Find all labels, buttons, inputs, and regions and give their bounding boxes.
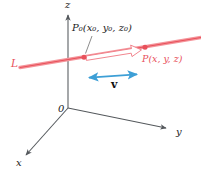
point-P-marker bbox=[143, 45, 148, 50]
x-axis-line bbox=[26, 108, 68, 155]
line-L-label: L bbox=[11, 58, 18, 69]
y-axis-label: y bbox=[176, 127, 182, 137]
point-P-label: P(x, y, z) bbox=[142, 54, 182, 64]
y-axis-line bbox=[68, 108, 166, 128]
displacement-arrow-outline bbox=[86, 45, 142, 60]
point-P0-label: P₀(x₀, y₀, z₀) bbox=[72, 23, 132, 33]
x-axis-label: x bbox=[16, 158, 22, 168]
point-P0-marker bbox=[82, 55, 87, 60]
figure-container: z y x 0 L P₀(x₀, y₀, z₀) P(x, y, z) v bbox=[0, 0, 201, 175]
displacement-arrow bbox=[86, 45, 142, 60]
z-axis-label: z bbox=[65, 0, 70, 10]
origin-label: 0 bbox=[58, 104, 64, 114]
coordinate-axes bbox=[26, 15, 166, 155]
vector-v-label: v bbox=[111, 79, 117, 90]
point0-leader-line bbox=[86, 36, 93, 54]
